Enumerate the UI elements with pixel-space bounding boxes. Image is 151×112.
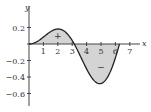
area-chart: 1234567 0.2−0.2−0.4−0.6 x y + − [0, 0, 151, 112]
y-ticks: 0.2−0.2−0.4−0.6 [6, 24, 31, 99]
y-tick-label: −0.4 [6, 73, 25, 82]
x-tick-label: 2 [55, 47, 60, 56]
x-tick-label: 4 [84, 47, 89, 56]
positive-region-label: + [54, 31, 62, 41]
y-tick-label: −0.2 [6, 57, 25, 66]
x-tick-label: 3 [70, 47, 75, 56]
y-tick-label: −0.6 [6, 90, 25, 99]
negative-region-label: − [97, 62, 105, 72]
x-tick-label: 5 [98, 47, 103, 56]
y-tick-label: 0.2 [12, 24, 25, 33]
x-tick-label: 1 [41, 47, 46, 56]
x-axis-label: x [142, 39, 147, 48]
y-axis-label: y [24, 3, 30, 12]
x-tick-label: 7 [127, 47, 132, 56]
